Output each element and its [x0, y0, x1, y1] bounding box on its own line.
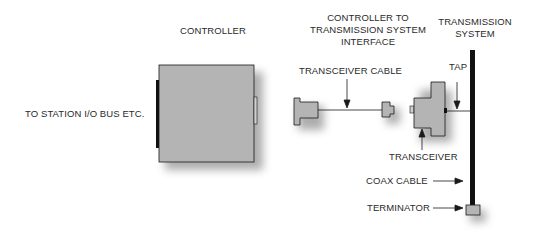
label-coax-cable: COAX CABLE: [366, 175, 428, 186]
arrow-coax: [455, 178, 463, 184]
arrow-tap: [454, 101, 460, 109]
controller-box: [156, 65, 257, 162]
label-terminator: TERMINATOR: [367, 202, 430, 213]
label-transmission-line1: TRANSMISSION: [435, 16, 515, 28]
arrow-transceiver-cable: [344, 100, 350, 108]
label-transmission-line2: SYSTEM: [435, 28, 515, 40]
terminator: [466, 205, 480, 215]
label-interface-line3: INTERFACE: [303, 36, 433, 48]
label-controller: CONTROLLER: [180, 25, 246, 36]
label-transmission-system: TRANSMISSION SYSTEM: [435, 16, 515, 40]
label-tap: TAP: [449, 61, 467, 72]
label-transceiver-cable: TRANSCEIVER CABLE: [299, 65, 402, 76]
arrow-terminator: [455, 205, 463, 211]
label-interface: CONTROLLER TO TRANSMISSION SYSTEM INTERF…: [303, 12, 433, 48]
label-interface-line1: CONTROLLER TO: [303, 12, 433, 24]
label-interface-line2: TRANSMISSION SYSTEM: [303, 24, 433, 36]
label-station-bus: TO STATION I/O BUS ETC.: [25, 108, 144, 119]
label-transceiver: TRANSCEIVER: [389, 151, 458, 162]
coax-cable: [470, 50, 475, 206]
